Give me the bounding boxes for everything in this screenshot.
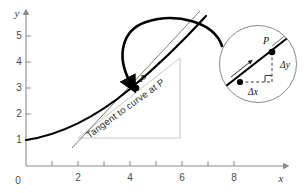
y-tick-label-3: 3 — [16, 82, 22, 93]
y-axis-ticks — [26, 36, 31, 140]
point-p-label: P — [139, 73, 146, 84]
magnifier-inset: P Δy Δx — [220, 26, 297, 103]
inset-point-p-label: P — [262, 35, 269, 46]
x-axis-label: x — [278, 172, 284, 184]
y-tick-label-2: 2 — [16, 108, 22, 119]
y-tick-label-1: 1 — [16, 134, 22, 145]
origin-label: 0 — [15, 175, 21, 186]
x-tick-label-8: 8 — [231, 172, 237, 183]
tangent-caption-text: Tangent to curve at P — [84, 76, 167, 140]
tangent-line-figure: 2 4 6 8 1 2 3 4 5 0 x y Tangent to curve… — [0, 0, 306, 193]
x-tick-label-6: 6 — [179, 172, 185, 183]
x-axis-ticks — [52, 161, 234, 166]
x-tick-label-2: 2 — [75, 172, 81, 183]
tangent-caption: Tangent to curve at P — [84, 76, 167, 140]
delta-x-label: Δx — [247, 87, 259, 97]
inset-point-p — [269, 49, 276, 56]
x-tick-label-4: 4 — [127, 172, 133, 183]
y-axis-label: y — [14, 7, 20, 19]
inset-secant-point — [237, 79, 243, 85]
y-tick-label-4: 4 — [16, 56, 22, 67]
delta-y-label: Δy — [279, 60, 291, 70]
y-tick-label-5: 5 — [16, 30, 22, 41]
